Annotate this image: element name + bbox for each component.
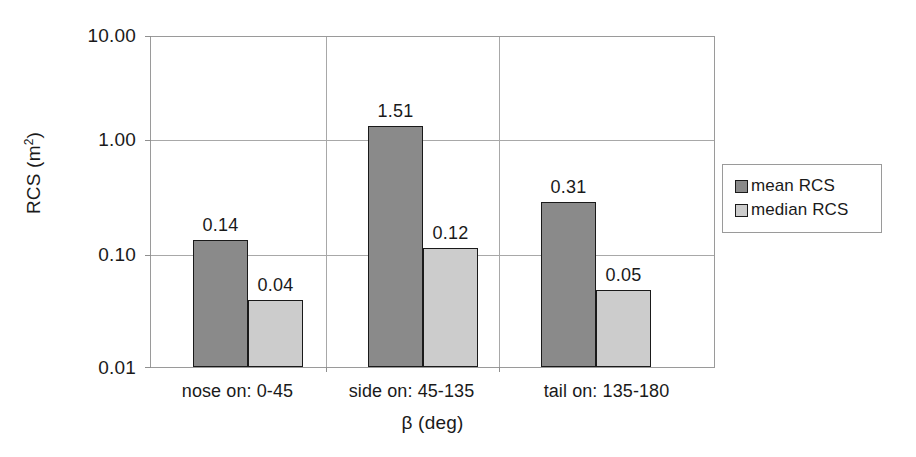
y-tickmark-1 — [145, 140, 151, 141]
category-separator-2 — [499, 37, 500, 367]
y-tick-label-0-01: 0.01 — [44, 357, 136, 379]
bar-value-label-mean-side-on: 1.51 — [353, 101, 438, 122]
legend-item-mean-rcs[interactable]: mean RCS — [735, 174, 871, 198]
y-tickmark-0-01 — [145, 367, 151, 368]
bar-value-label-median-tail-on: 0.05 — [581, 265, 666, 286]
x-axis-title: β (deg) — [150, 412, 715, 434]
x-category-label-side-on: side on: 45-135 — [325, 381, 498, 402]
x-category-label-tail-on: tail on: 135-180 — [498, 381, 715, 402]
legend-swatch-icon-mean-rcs — [735, 180, 748, 193]
x-tickmark-2 — [499, 367, 500, 372]
y-tickmark-0-10 — [145, 255, 151, 256]
bar-median-side-on[interactable] — [423, 248, 478, 367]
y-tickmark-10 — [145, 36, 151, 37]
plot-area: 0.14 0.04 1.51 0.12 0.31 0.05 — [150, 36, 715, 368]
bar-value-label-mean-tail-on: 0.31 — [526, 177, 611, 198]
bar-value-label-median-side-on: 0.12 — [408, 223, 493, 244]
chart-legend: mean RCS median RCS — [722, 164, 882, 233]
gridline-1-00 — [151, 140, 714, 141]
y-tick-label-1: 1.00 — [44, 129, 136, 151]
y-axis-title-superscript: 2 — [22, 138, 36, 145]
bar-median-tail-on[interactable] — [596, 290, 651, 367]
bar-value-label-median-nose-on: 0.04 — [233, 275, 318, 296]
legend-item-median-rcs[interactable]: median RCS — [735, 198, 871, 222]
y-tick-label-0-10: 0.10 — [44, 244, 136, 266]
legend-label-median-rcs: median RCS — [751, 200, 848, 220]
x-category-label-nose-on: nose on: 0-45 — [150, 381, 325, 402]
legend-label-mean-rcs: mean RCS — [751, 176, 835, 196]
legend-swatch-icon-median-rcs — [735, 204, 748, 217]
x-tickmark-1 — [326, 367, 327, 372]
y-tick-label-10: 10.00 — [44, 25, 136, 47]
y-axis-tick-labels: 10.00 1.00 0.10 0.01 — [36, 0, 136, 457]
category-separator-1 — [326, 37, 327, 367]
bar-value-label-mean-nose-on: 0.14 — [178, 215, 263, 236]
rcs-bar-chart: RCS (m2) 10.00 1.00 0.10 0.01 0.14 0.04 — [0, 0, 916, 457]
bar-median-nose-on[interactable] — [248, 300, 303, 367]
bar-mean-nose-on[interactable] — [193, 240, 248, 367]
bar-mean-side-on[interactable] — [368, 126, 423, 367]
